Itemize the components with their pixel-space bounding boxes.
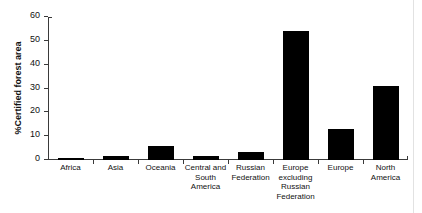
x-axis-label: Asia bbox=[93, 163, 138, 173]
page-edge-artifact bbox=[413, 0, 414, 213]
bar bbox=[58, 158, 84, 160]
bar-slot bbox=[48, 17, 93, 160]
y-axis-tick-label: 10 bbox=[30, 129, 40, 140]
x-axis-label: Russian Federation bbox=[228, 163, 273, 182]
x-axis-label: Oceania bbox=[138, 163, 183, 173]
bar-series bbox=[48, 17, 408, 160]
bar-slot bbox=[228, 17, 273, 160]
bar bbox=[193, 156, 219, 160]
bar bbox=[148, 146, 174, 160]
bar bbox=[328, 129, 354, 160]
bar-slot bbox=[183, 17, 228, 160]
x-axis-label: Europe bbox=[318, 163, 363, 173]
y-axis-tick-label: 60 bbox=[30, 10, 40, 21]
bar-slot bbox=[138, 17, 183, 160]
y-axis-tick-label: 50 bbox=[30, 34, 40, 45]
y-axis-title: %Certified forest area bbox=[13, 18, 23, 158]
bar-chart: %Certified forest area 0102030405060 Afr… bbox=[0, 0, 422, 213]
x-axis-label: Africa bbox=[48, 163, 93, 173]
plot-area: 0102030405060 bbox=[48, 17, 408, 160]
bar-slot bbox=[273, 17, 318, 160]
bar bbox=[238, 152, 264, 160]
y-axis-tick-label: 40 bbox=[30, 58, 40, 69]
bar-slot bbox=[318, 17, 363, 160]
x-axis-labels: AfricaAsiaOceaniaCentral and South Ameri… bbox=[48, 163, 408, 213]
bar bbox=[283, 31, 309, 160]
bar bbox=[373, 86, 399, 160]
bar-slot bbox=[363, 17, 408, 160]
bar-slot bbox=[93, 17, 138, 160]
y-axis-tick-label: 0 bbox=[35, 153, 40, 164]
y-axis-tick-label: 20 bbox=[30, 105, 40, 116]
x-axis-label: Central and South America bbox=[183, 163, 228, 192]
x-axis-label: Europe excluding Russian Federation bbox=[273, 163, 318, 201]
bar bbox=[103, 156, 129, 160]
x-axis-label: North America bbox=[363, 163, 408, 182]
y-axis-tick-label: 30 bbox=[30, 82, 40, 93]
